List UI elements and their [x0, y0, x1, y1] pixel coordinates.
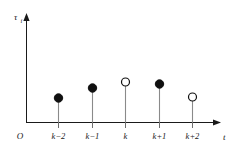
data-point-marker-open: [189, 93, 197, 101]
data-point-marker-filled: [88, 84, 96, 92]
x-axis-tick-labels: k−2 k−1 k k+1 k+2: [52, 131, 201, 141]
tick-label: k+1: [153, 131, 167, 141]
x-axis: [27, 120, 222, 126]
tick-label: k−1: [86, 131, 100, 141]
y-axis-label: τ i: [14, 12, 23, 24]
y-axis-label-subscript: i: [21, 17, 23, 24]
x-axis-label: t: [223, 132, 226, 142]
data-point-marker-filled: [155, 80, 163, 88]
tick-label: k−2: [52, 131, 67, 141]
tick-label: k+2: [186, 131, 201, 141]
data-point-marker-open: [122, 78, 130, 86]
stem-plot-canvas: τ i t O k−2 k−1 k k+1 k+2: [0, 0, 238, 153]
y-axis-arrow-icon: [23, 13, 29, 21]
x-axis-arrow-icon: [213, 120, 221, 126]
tick-label: k: [124, 131, 128, 141]
y-axis: [23, 13, 29, 123]
stem-lines: [59, 82, 193, 122]
data-point-marker-filled: [54, 94, 62, 102]
stem-plot-figure: τ i t O k−2 k−1 k k+1 k+2: [0, 0, 238, 153]
origin-label: O: [17, 131, 24, 141]
y-axis-label-symbol: τ: [14, 12, 18, 22]
